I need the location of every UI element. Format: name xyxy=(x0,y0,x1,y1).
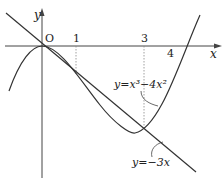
graph: y O 1 3 4 x y=x³−4x² y=−3x xyxy=(0,0,224,183)
line-label-pointer xyxy=(152,142,163,157)
tick-label-4: 4 xyxy=(167,47,174,60)
cubic-label: y=x³−4x² xyxy=(113,78,167,91)
cubic-label-pointer xyxy=(141,91,158,106)
origin-label: O xyxy=(45,32,54,45)
x-axis-label: x xyxy=(210,47,217,61)
tick-label-1: 1 xyxy=(73,32,80,45)
y-axis-label: y xyxy=(33,8,41,22)
tick-label-3: 3 xyxy=(141,32,148,45)
curve-cubic xyxy=(9,15,200,133)
line-label: y=−3x xyxy=(131,156,171,169)
